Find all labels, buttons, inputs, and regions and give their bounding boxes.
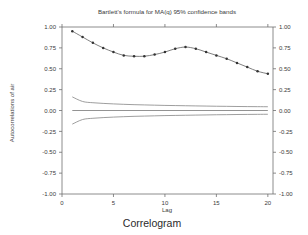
data-point	[236, 62, 239, 65]
chart-title: Bartlett's formula for MA(q) 95% confide…	[98, 8, 236, 15]
data-point	[133, 55, 136, 58]
data-point	[246, 66, 249, 69]
x-tick-label: 20	[265, 200, 272, 206]
data-point	[184, 46, 187, 49]
chart-caption: Correlogram	[123, 217, 182, 229]
y-tick-label: 0.50	[44, 66, 56, 72]
data-point	[205, 51, 208, 54]
y-tick-label-right: -0.75	[279, 170, 293, 176]
data-point	[102, 47, 105, 50]
data-point	[71, 30, 74, 33]
data-point	[143, 55, 146, 58]
y-tick-label: 0.25	[44, 87, 56, 93]
y-tick-label-right: 0.00	[279, 108, 291, 114]
x-axis-title: Lag	[162, 207, 172, 213]
data-point	[174, 47, 177, 50]
data-point	[195, 47, 198, 50]
y-tick-label-right: 1.00	[279, 24, 291, 30]
data-point	[92, 42, 95, 45]
data-point	[123, 54, 126, 57]
data-point	[256, 70, 259, 73]
y-tick-label: 1.00	[44, 24, 56, 30]
y-tick-label: -0.50	[42, 149, 56, 155]
y-tick-label-right: 0.25	[279, 87, 291, 93]
data-point	[112, 51, 115, 54]
data-point	[81, 36, 84, 39]
y-tick-label: -0.25	[42, 129, 56, 135]
correlogram-chart: Bartlett's formula for MA(q) 95% confide…	[0, 0, 308, 235]
y-tick-label: -1.00	[42, 191, 56, 197]
x-tick-label: 10	[162, 200, 169, 206]
figure-background	[0, 0, 308, 235]
x-tick-label: 15	[213, 200, 220, 206]
y-tick-label: -0.75	[42, 170, 56, 176]
data-point	[164, 51, 167, 54]
correlogram-figure: Bartlett's formula for MA(q) 95% confide…	[0, 0, 308, 235]
y-tick-label-right: 0.50	[279, 66, 291, 72]
y-tick-label: 0.75	[44, 45, 56, 51]
y-tick-label-right: 0.75	[279, 45, 291, 51]
y-tick-label: 0.00	[44, 108, 56, 114]
data-point	[225, 57, 228, 60]
y-axis-title: Autocorrelations of air	[9, 84, 15, 142]
data-point	[215, 54, 218, 57]
y-tick-label-right: -0.25	[279, 129, 293, 135]
data-point	[153, 53, 156, 56]
y-tick-label-right: -1.00	[279, 191, 293, 197]
data-point	[267, 73, 270, 76]
y-tick-label-right: -0.50	[279, 149, 293, 155]
